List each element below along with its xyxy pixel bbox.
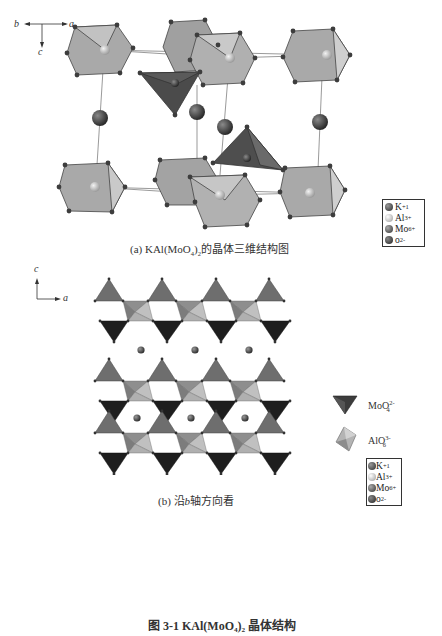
axis-c-label: c xyxy=(34,263,38,274)
octahedra-bottom xyxy=(59,158,345,227)
aluminum-atom-icon xyxy=(385,214,393,222)
oxygen-atom-icon xyxy=(385,236,393,244)
legend-panel-a: K+1 Al3+ Mo6+ o2- xyxy=(382,199,425,247)
octahedron-icon xyxy=(334,426,358,452)
legend-item-mo: Mo6+ xyxy=(368,482,398,493)
potassium-atom-icon xyxy=(385,203,393,211)
caption-panel-b: (b) 沿b轴方向看 xyxy=(158,492,234,508)
octahedra-top xyxy=(67,20,350,85)
crystal-structure-3d xyxy=(55,15,365,230)
axes-indicator-b: c a xyxy=(32,273,72,305)
oxygen-atom-icon xyxy=(368,495,376,503)
legend-item-o: o2- xyxy=(385,234,421,245)
molybdenum-atom-icon xyxy=(368,484,376,492)
legend-item-k: K+1 xyxy=(368,460,398,471)
potassium-atoms xyxy=(92,104,328,135)
panel-a: b a c xyxy=(0,0,442,255)
legend-item-al: Al3+ xyxy=(385,212,421,223)
caption-panel-a: (a) KAl(MoO4)2的晶体三维结构图 xyxy=(130,240,289,257)
axis-a-label: a xyxy=(63,292,68,303)
legend-item-mo: Mo6+ xyxy=(385,223,421,234)
tetrahedron-icon xyxy=(332,394,358,416)
potassium-row-2 xyxy=(133,414,248,421)
potassium-row-1 xyxy=(137,346,252,353)
legend-item-o: o2- xyxy=(368,493,398,504)
legend-item-k: K+1 xyxy=(385,201,421,212)
panel-b: c a xyxy=(0,270,442,610)
axis-b-label: b xyxy=(14,18,19,29)
moo4-label: MoO2-4 xyxy=(368,399,395,413)
potassium-atom-icon xyxy=(368,462,376,470)
alo6-label: AlO3-6 xyxy=(368,434,391,448)
polyhedra-legend: MoO2-4 AlO3-6 xyxy=(330,392,440,462)
aluminum-atom-icon xyxy=(368,473,376,481)
molybdenum-atom-icon xyxy=(385,225,393,233)
legend-panel-b: K+1 Al3+ Mo6+ o2- xyxy=(366,458,402,506)
crystal-projection-b-axis xyxy=(92,275,302,475)
legend-item-al: Al3+ xyxy=(368,471,398,482)
figure-caption: 图 3-1 KAl(MoO₄)₂ 晶体结构 xyxy=(148,616,296,634)
axis-c-label: c xyxy=(38,46,42,57)
